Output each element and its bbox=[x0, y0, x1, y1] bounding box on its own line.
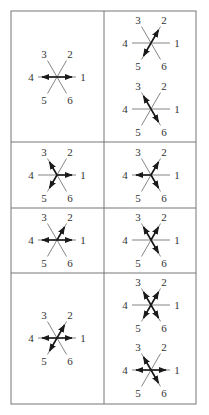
spoke-label-1: 1 bbox=[174, 103, 180, 115]
arrow-to-2 bbox=[57, 227, 65, 240]
star-9: 123456 bbox=[122, 341, 180, 398]
spoke-label-3: 3 bbox=[135, 341, 141, 353]
star-7: 123456 bbox=[28, 309, 86, 366]
star-2: 123456 bbox=[122, 80, 180, 137]
spoke-label-4: 4 bbox=[28, 234, 34, 246]
arrow-to-3 bbox=[144, 357, 152, 370]
star-0: 123456 bbox=[28, 48, 86, 105]
spoke-label-5: 5 bbox=[135, 322, 141, 334]
star-5: 123456 bbox=[28, 211, 86, 268]
spoke-label-2: 2 bbox=[161, 14, 167, 26]
spoke-label-4: 4 bbox=[28, 332, 34, 344]
spoke-label-5: 5 bbox=[41, 94, 47, 106]
spoke-label-3: 3 bbox=[135, 80, 141, 92]
arrow-to-6 bbox=[151, 370, 159, 383]
spoke-label-5: 5 bbox=[41, 257, 47, 269]
arrow-to-2 bbox=[151, 162, 159, 175]
spoke-label-1: 1 bbox=[174, 299, 180, 311]
spoke-label-2: 2 bbox=[161, 146, 167, 158]
spoke-label-1: 1 bbox=[174, 37, 180, 49]
spoke-label-5: 5 bbox=[135, 60, 141, 72]
arrow-to-2 bbox=[57, 325, 65, 338]
spoke-label-4: 4 bbox=[122, 364, 128, 376]
arrow-to-6 bbox=[151, 305, 159, 318]
spoke-label-4: 4 bbox=[122, 103, 128, 115]
spoke-label-6: 6 bbox=[161, 257, 167, 269]
star-8: 123456 bbox=[122, 276, 180, 333]
spoke-label-2: 2 bbox=[67, 146, 73, 158]
spoke-label-3: 3 bbox=[135, 14, 141, 26]
spoke-label-6: 6 bbox=[161, 322, 167, 334]
arrow-to-2 bbox=[151, 30, 159, 43]
arrow-to-6 bbox=[151, 240, 159, 253]
spoke-label-6: 6 bbox=[67, 192, 73, 204]
spoke-label-1: 1 bbox=[80, 169, 86, 181]
spoke-label-4: 4 bbox=[122, 169, 128, 181]
arrow-to-5 bbox=[50, 175, 58, 188]
spoke-label-1: 1 bbox=[80, 332, 86, 344]
spoke-label-3: 3 bbox=[135, 276, 141, 288]
spoke-label-3: 3 bbox=[41, 48, 47, 60]
spoke-label-1: 1 bbox=[174, 364, 180, 376]
spoke-label-2: 2 bbox=[161, 341, 167, 353]
spoke-label-5: 5 bbox=[135, 192, 141, 204]
arrow-to-5 bbox=[144, 305, 152, 318]
spoke-label-1: 1 bbox=[174, 169, 180, 181]
spoke-label-2: 2 bbox=[161, 276, 167, 288]
spoke-label-6: 6 bbox=[161, 387, 167, 399]
spoke-label-2: 2 bbox=[67, 309, 73, 321]
spoke-label-5: 5 bbox=[135, 257, 141, 269]
spoke-label-6: 6 bbox=[161, 126, 167, 138]
arrow-to-6 bbox=[151, 109, 159, 122]
arrow-to-5 bbox=[50, 338, 58, 351]
spoke-label-4: 4 bbox=[122, 37, 128, 49]
spoke-label-3: 3 bbox=[135, 146, 141, 158]
table-grid bbox=[11, 11, 196, 404]
spoke-label-1: 1 bbox=[80, 234, 86, 246]
spoke-label-6: 6 bbox=[67, 257, 73, 269]
spoke-label-6: 6 bbox=[161, 60, 167, 72]
spoke-label-4: 4 bbox=[122, 299, 128, 311]
spoke-label-3: 3 bbox=[41, 146, 47, 158]
spoke-label-3: 3 bbox=[41, 211, 47, 223]
spoke-label-5: 5 bbox=[41, 355, 47, 367]
spoke-label-3: 3 bbox=[41, 309, 47, 321]
spoke-label-4: 4 bbox=[122, 234, 128, 246]
star-diagram-table: 1234561234561234561234561234561234561234… bbox=[0, 0, 209, 415]
spoke-label-4: 4 bbox=[28, 71, 34, 83]
spoke-label-6: 6 bbox=[67, 355, 73, 367]
spoke-label-4: 4 bbox=[28, 169, 34, 181]
arrow-to-3 bbox=[144, 292, 152, 305]
spoke-label-1: 1 bbox=[174, 234, 180, 246]
star-6: 123456 bbox=[122, 211, 180, 268]
star-3: 123456 bbox=[28, 146, 86, 203]
star-4: 123456 bbox=[122, 146, 180, 203]
spoke-label-6: 6 bbox=[161, 192, 167, 204]
arrow-to-5 bbox=[144, 43, 152, 56]
arrow-to-6 bbox=[151, 175, 159, 188]
spoke-label-5: 5 bbox=[135, 126, 141, 138]
spoke-label-3: 3 bbox=[135, 211, 141, 223]
spoke-label-2: 2 bbox=[161, 80, 167, 92]
arrow-to-2 bbox=[151, 227, 159, 240]
arrow-to-3 bbox=[50, 162, 58, 175]
spoke-label-5: 5 bbox=[135, 387, 141, 399]
spoke-label-2: 2 bbox=[67, 48, 73, 60]
arrow-to-2 bbox=[151, 292, 159, 305]
spoke-label-2: 2 bbox=[67, 211, 73, 223]
arrow-to-3 bbox=[144, 96, 152, 109]
spoke-label-5: 5 bbox=[41, 192, 47, 204]
spoke-label-2: 2 bbox=[161, 211, 167, 223]
spoke-label-1: 1 bbox=[80, 71, 86, 83]
star-1: 123456 bbox=[122, 14, 180, 71]
spoke-label-6: 6 bbox=[67, 94, 73, 106]
arrow-to-3 bbox=[144, 227, 152, 240]
